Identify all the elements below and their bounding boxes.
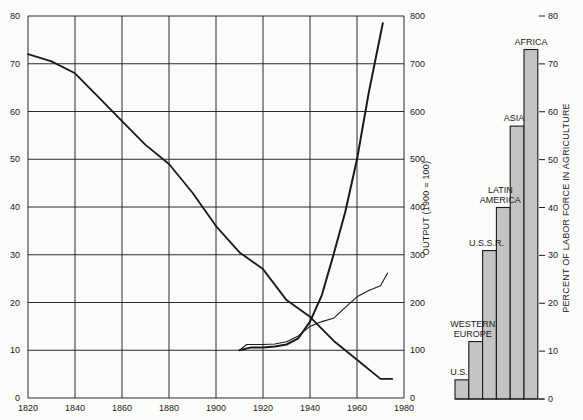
line-series xyxy=(28,23,392,379)
bar-category-label: U.S.S.R. xyxy=(469,238,504,248)
left-axis-tick-label: 20 xyxy=(10,298,20,308)
bar-axis-tick-label: 70 xyxy=(548,59,558,69)
bar-asia xyxy=(510,126,524,399)
right-axis-tick-label: 200 xyxy=(410,298,425,308)
x-axis-tick-label: 1920 xyxy=(253,403,273,413)
x-axis-tick-label: 1820 xyxy=(18,403,38,413)
x-axis-tick-label: 1900 xyxy=(206,403,226,413)
bar-africa xyxy=(524,50,538,399)
right-axis-title: OUTPUT (1900 = 100) xyxy=(421,161,431,255)
bar-category-label: U.S. xyxy=(450,367,468,377)
bar-category-label: EUROPE xyxy=(454,329,492,339)
bar-category-label: AFRICA xyxy=(514,37,547,47)
bar-axis-tick-label: 40 xyxy=(548,203,558,213)
line-chart: 01020304050607080 0100200300400500600700… xyxy=(10,11,431,413)
right-axis-tick-label: 800 xyxy=(410,11,425,21)
left-axis-tick-label: 0 xyxy=(15,393,20,403)
bar-axis-tick-label: 60 xyxy=(548,107,558,117)
bar-axis-tick-label: 30 xyxy=(548,250,558,260)
bar-latin-america xyxy=(496,208,510,400)
bar-category-label: WESTERN xyxy=(450,319,495,329)
chart-canvas: 01020304050607080 0100200300400500600700… xyxy=(0,0,583,420)
left-axis-tick-label: 70 xyxy=(10,59,20,69)
bar-axis-tick-label: 0 xyxy=(548,394,553,404)
right-axis-tick-label: 700 xyxy=(410,59,425,69)
x-axis-tick-label: 1940 xyxy=(300,403,320,413)
right-axis-tick-label: 0 xyxy=(410,393,415,403)
bar-axis-title: PERCENT OF LABOR FORCE IN AGRICULTURE xyxy=(561,103,571,313)
left-axis-tick-label: 80 xyxy=(10,11,20,21)
bar-western-europe xyxy=(469,342,483,399)
figure: 01020304050607080 0100200300400500600700… xyxy=(0,0,583,420)
bar-u-s xyxy=(455,380,469,399)
bar-axis-tick-label: 10 xyxy=(548,346,558,356)
x-axis-tick-label: 1960 xyxy=(347,403,367,413)
left-axis-tick-label: 40 xyxy=(10,202,20,212)
bar-axis-tick-label: 80 xyxy=(548,11,558,21)
x-axis-tick-label: 1980 xyxy=(394,403,414,413)
x-axis-ticks: 182018401860188019001920194019601980 xyxy=(18,403,414,413)
right-axis-tick-label: 600 xyxy=(410,107,425,117)
right-axis-tick-label: 100 xyxy=(410,345,425,355)
left-axis-ticks: 01020304050607080 xyxy=(10,11,20,403)
bar-chart: U.S.WESTERNEUROPEU.S.S.R.LATINAMERICAASI… xyxy=(450,11,571,404)
left-axis-tick-label: 30 xyxy=(10,250,20,260)
left-axis-tick-label: 60 xyxy=(10,107,20,117)
x-axis-tick-label: 1840 xyxy=(65,403,85,413)
line-series-2 xyxy=(240,23,383,350)
x-axis-tick-label: 1860 xyxy=(112,403,132,413)
grid-lines xyxy=(28,16,404,398)
bar-category-label: LATIN xyxy=(488,185,513,195)
bar-category-label: AMERICA xyxy=(480,195,521,205)
bars xyxy=(455,50,538,399)
line-series-1 xyxy=(28,54,392,379)
left-axis-tick-label: 50 xyxy=(10,154,20,164)
x-axis-tick-label: 1880 xyxy=(159,403,179,413)
bar-category-label: ASIA xyxy=(504,113,525,123)
left-axis-tick-label: 10 xyxy=(10,345,20,355)
bar-axis-tick-label: 50 xyxy=(548,155,558,165)
bar-axis-tick-label: 20 xyxy=(548,298,558,308)
